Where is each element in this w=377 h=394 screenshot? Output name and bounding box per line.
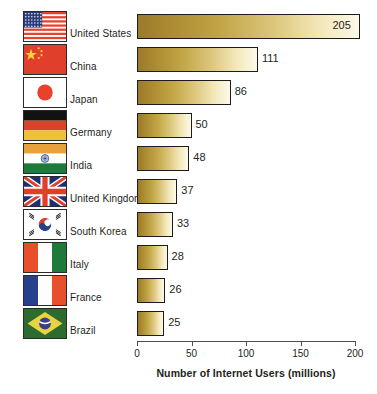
- bar: [137, 245, 168, 270]
- country-label: Brazil: [70, 325, 96, 336]
- bar: [137, 212, 173, 237]
- x-axis-tick-label: 100: [238, 348, 255, 359]
- x-axis: 050100150200 Number of Internet Users (m…: [0, 341, 377, 394]
- x-axis-tick: [192, 341, 193, 346]
- internet-users-bar-chart: United States205 China111 Japan86 German…: [0, 0, 377, 394]
- bar-value-label: 33: [177, 217, 189, 229]
- flag-india-icon: [23, 143, 67, 174]
- bar-value-label: 48: [193, 151, 205, 163]
- chart-row: China111: [0, 44, 377, 77]
- x-axis-tick-label: 200: [347, 348, 364, 359]
- bar-value-label: 111: [262, 52, 279, 64]
- flag-germany-icon: [23, 110, 67, 141]
- x-axis-title: Number of Internet Users (millions): [137, 367, 355, 379]
- bar: [137, 14, 360, 39]
- chart-row: India48: [0, 143, 377, 176]
- country-label: China: [70, 61, 97, 72]
- bar-value-label: 86: [235, 85, 247, 97]
- bar-value-label: 50: [196, 118, 208, 130]
- x-axis-tick-label: 0: [134, 348, 140, 359]
- country-label: Germany: [70, 127, 112, 138]
- chart-row: United States205: [0, 11, 377, 44]
- flag-united-kingdom-icon: [23, 176, 67, 207]
- x-axis-tick-label: 50: [186, 348, 197, 359]
- bar: [137, 146, 189, 171]
- country-label: France: [70, 292, 102, 303]
- chart-row: South Korea33: [0, 209, 377, 242]
- x-axis-tick: [246, 341, 247, 346]
- flag-france-icon: [23, 275, 67, 306]
- x-axis-tick-label: 150: [292, 348, 309, 359]
- bar: [137, 47, 258, 72]
- bar: [137, 179, 177, 204]
- flag-united-states-icon: [23, 11, 67, 42]
- bar-value-label: 28: [172, 250, 184, 262]
- chart-row: Brazil25: [0, 308, 377, 341]
- flag-brazil-icon: [23, 308, 67, 339]
- bar-value-label: 26: [169, 283, 181, 295]
- bar-value-label: 37: [181, 184, 193, 196]
- bar-value-label: 25: [168, 316, 180, 328]
- flag-japan-icon: [23, 77, 67, 108]
- chart-row: Germany50: [0, 110, 377, 143]
- bar: [137, 311, 164, 336]
- flag-italy-icon: [23, 242, 67, 273]
- flag-south-korea-icon: [23, 209, 67, 240]
- country-label: United States: [70, 28, 131, 39]
- x-axis-tick: [137, 341, 138, 346]
- bar-value-label: 205: [332, 19, 350, 31]
- country-label: India: [70, 160, 92, 171]
- country-label: United Kingdom: [70, 193, 143, 204]
- country-label: Italy: [70, 259, 89, 270]
- chart-row: France26: [0, 275, 377, 308]
- bar: [137, 80, 231, 105]
- x-axis-tick: [355, 341, 356, 346]
- chart-row: United Kingdom37: [0, 176, 377, 209]
- bar: [137, 113, 192, 138]
- chart-row: Italy28: [0, 242, 377, 275]
- x-axis-tick: [301, 341, 302, 346]
- country-label: South Korea: [70, 226, 127, 237]
- bar: [137, 278, 165, 303]
- country-label: Japan: [70, 94, 98, 105]
- chart-row: Japan86: [0, 77, 377, 110]
- flag-china-icon: [23, 44, 67, 75]
